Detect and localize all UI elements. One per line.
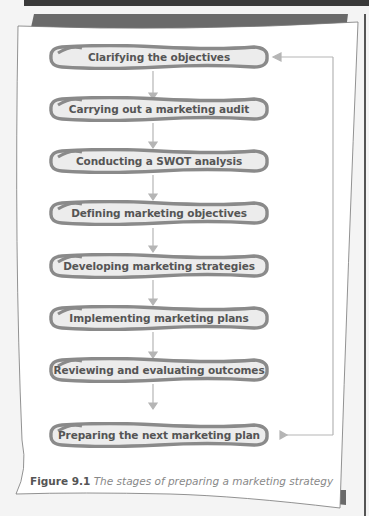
stage-7: Reviewing and evaluating outcomes bbox=[48, 357, 270, 383]
stage-label: Developing marketing strategies bbox=[48, 253, 270, 279]
stage-label: Implementing marketing plans bbox=[48, 305, 270, 331]
figure-caption: Figure 9.1 The stages of preparing a mar… bbox=[30, 475, 333, 487]
stage-label: Clarifying the objectives bbox=[48, 44, 270, 70]
figure-number: Figure 9.1 bbox=[30, 475, 90, 487]
stage-label: Preparing the next marketing plan bbox=[48, 422, 270, 448]
stage-4: Defining marketing objectives bbox=[48, 200, 270, 226]
stage-8: Preparing the next marketing plan bbox=[48, 422, 270, 448]
stage-2: Carrying out a marketing audit bbox=[48, 96, 270, 122]
stage-label: Defining marketing objectives bbox=[48, 200, 270, 226]
figure-caption-text: The stages of preparing a marketing stra… bbox=[94, 475, 334, 487]
stage-5: Developing marketing strategies bbox=[48, 253, 270, 279]
stage-6: Implementing marketing plans bbox=[48, 305, 270, 331]
stage-label: Carrying out a marketing audit bbox=[48, 96, 270, 122]
stage-3: Conducting a SWOT analysis bbox=[48, 148, 270, 174]
stage-label: Reviewing and evaluating outcomes bbox=[48, 357, 270, 383]
stage-label: Conducting a SWOT analysis bbox=[48, 148, 270, 174]
stage-1: Clarifying the objectives bbox=[48, 44, 270, 70]
